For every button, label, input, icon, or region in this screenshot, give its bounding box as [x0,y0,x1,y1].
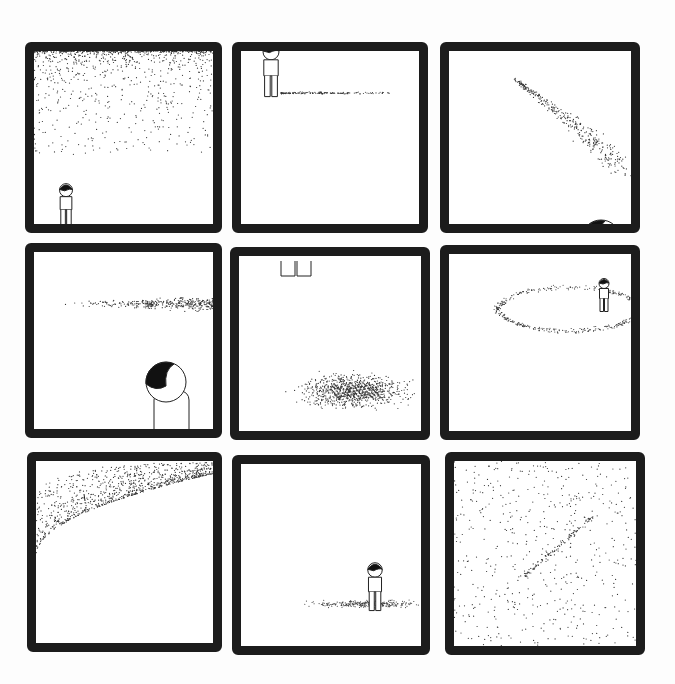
dot-swirl [494,285,631,334]
figure [599,279,609,312]
diagonal-streak [524,516,594,577]
comic-panel-2 [232,42,428,233]
dot-field [34,51,213,155]
panel-illustration [34,51,213,224]
head-looking-up [583,220,619,224]
comic-panel-3 [440,42,640,233]
panel-illustration [36,461,213,643]
comic-panel-8 [232,455,430,655]
dot-trail [281,91,390,94]
panel-illustration [34,252,213,429]
comic-panel-7 [27,452,222,652]
comic-panel-4 [25,243,222,438]
dot-cloud [285,370,415,411]
feet [281,261,311,276]
dot-streak [514,78,631,177]
figure [60,184,73,224]
panel-illustration [449,254,631,431]
panel-illustration [241,464,421,646]
comic-panel-9 [445,452,645,655]
comic-panel-5 [230,247,430,440]
dot-patch [304,599,421,608]
comic-panel-6 [440,245,640,440]
panel-illustration [454,461,636,646]
figure [368,563,383,611]
panel-illustration [239,256,421,431]
dot-scatter [454,461,636,646]
comic-panel-1 [25,42,222,233]
panel-illustration [449,51,631,224]
small-dark-mark [84,494,85,501]
figure-closeup [146,362,189,429]
dot-arc [36,462,213,553]
figure [263,51,279,97]
panel-illustration [241,51,419,224]
dot-band [65,297,213,313]
